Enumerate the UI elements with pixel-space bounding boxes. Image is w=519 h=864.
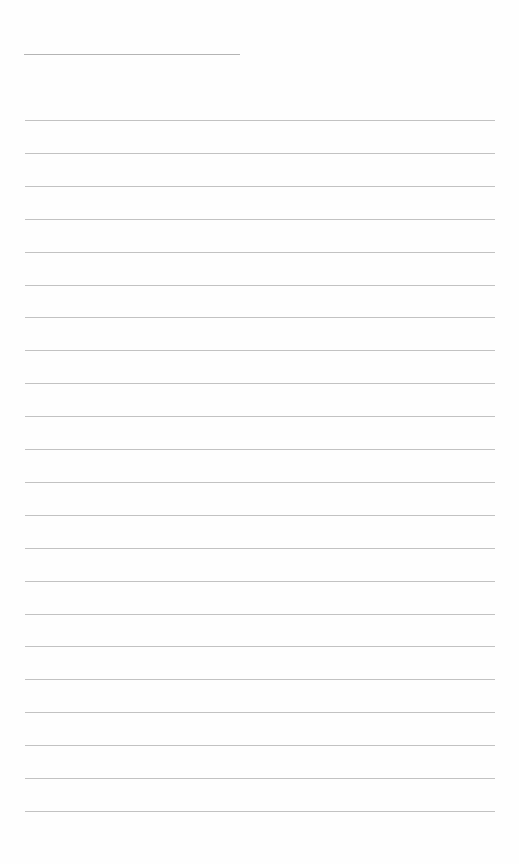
ruled-line: [25, 252, 495, 253]
ruled-line: [25, 120, 495, 121]
lined-page: [0, 0, 519, 864]
ruled-line: [25, 548, 495, 549]
ruled-line: [25, 317, 495, 318]
ruled-line: [25, 712, 495, 713]
ruled-line: [25, 745, 495, 746]
ruled-line: [25, 350, 495, 351]
ruled-line: [25, 153, 495, 154]
ruled-line: [25, 383, 495, 384]
ruled-line: [25, 482, 495, 483]
ruled-line: [25, 679, 495, 680]
title-line: [24, 54, 240, 55]
ruled-line: [25, 219, 495, 220]
ruled-line: [25, 811, 495, 812]
ruled-line: [25, 778, 495, 779]
ruled-line: [25, 515, 495, 516]
ruled-line: [25, 449, 495, 450]
ruled-line: [25, 416, 495, 417]
ruled-line: [25, 186, 495, 187]
ruled-line: [25, 646, 495, 647]
ruled-line: [25, 614, 495, 615]
ruled-line: [25, 285, 495, 286]
ruled-line: [25, 581, 495, 582]
